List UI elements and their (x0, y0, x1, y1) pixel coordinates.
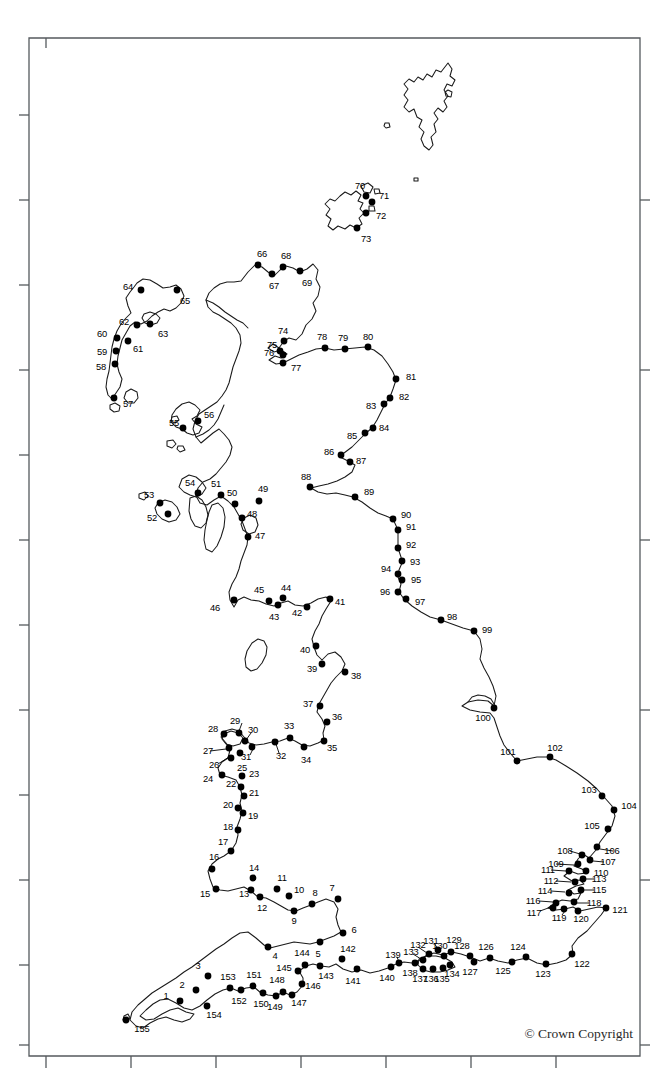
site-dot (342, 669, 349, 676)
site-dot (572, 879, 579, 886)
site-label: 65 (180, 296, 190, 305)
site-dot (369, 199, 376, 206)
site-label: 145 (276, 963, 291, 972)
site-dot (113, 348, 120, 355)
site-label: 20 (223, 800, 233, 809)
site-label: 94 (381, 564, 391, 573)
site-dot (362, 430, 369, 437)
site-dot (363, 210, 370, 217)
site-label: 143 (318, 971, 333, 980)
site-label: 115 (592, 885, 607, 894)
site-dot (286, 893, 293, 900)
site-dot (370, 425, 377, 432)
site-label: 68 (281, 251, 291, 260)
site-label: 44 (281, 583, 291, 592)
site-label: 23 (249, 769, 259, 778)
site-label: 141 (345, 976, 360, 985)
site-label: 55 (169, 418, 179, 427)
coast-orkney-isle-c (369, 206, 375, 211)
site-dot (587, 857, 594, 864)
site-label: 117 (527, 908, 542, 917)
site-dot (231, 597, 238, 604)
site-dot (388, 964, 395, 971)
site-dot (514, 758, 521, 765)
site-dot (603, 905, 610, 912)
site-dot (221, 731, 228, 738)
site-dot (114, 335, 121, 342)
site-dot (272, 739, 279, 746)
site-dot (467, 953, 474, 960)
site-dot (157, 500, 164, 507)
site-label: 30 (248, 725, 258, 734)
site-dot (395, 545, 402, 552)
site-label: 122 (574, 959, 589, 968)
site-label: 38 (351, 671, 361, 680)
copyright-notice: © Crown Copyright (524, 1026, 633, 1042)
site-dot (393, 376, 400, 383)
site-label: 52 (147, 513, 157, 522)
site-label: 148 (269, 975, 284, 984)
site-dot (523, 954, 530, 961)
site-dot (605, 826, 612, 833)
coast-shetland (404, 63, 455, 150)
site-dot (195, 490, 202, 497)
site-label: 120 (573, 914, 588, 923)
site-dot (583, 868, 590, 875)
site-label: 18 (223, 822, 233, 831)
site-dot (363, 193, 370, 200)
site-label: 39 (307, 664, 317, 673)
site-dot (195, 418, 202, 425)
site-dot (569, 951, 576, 958)
site-dot (257, 894, 264, 901)
site-label: 138 (402, 968, 417, 977)
right-tick-marks (640, 200, 650, 1045)
site-dot (226, 745, 233, 752)
site-dot (275, 602, 282, 609)
site-dot (228, 848, 235, 855)
site-label: 62 (119, 317, 129, 326)
site-dot (227, 985, 234, 992)
site-dot (340, 930, 347, 937)
site-label: 49 (258, 484, 268, 493)
site-label: 149 (267, 1002, 282, 1011)
site-label: 63 (158, 329, 168, 338)
site-dot (395, 527, 402, 534)
site-dot (420, 957, 427, 964)
site-dot (274, 886, 281, 893)
site-label: 125 (495, 966, 510, 975)
site-dot (403, 596, 410, 603)
site-label: 32 (276, 751, 286, 760)
site-dot (125, 338, 132, 345)
site-label: 142 (340, 944, 355, 953)
site-dot (412, 960, 419, 967)
site-dot (354, 225, 361, 232)
site-dot (550, 905, 557, 912)
site-dot (297, 268, 304, 275)
site-dot (240, 810, 247, 817)
site-label: 13 (239, 889, 249, 898)
site-dot (281, 338, 288, 345)
site-dot (165, 511, 172, 518)
site-label: 46 (210, 603, 220, 612)
site-label: 76 (264, 348, 274, 357)
site-label: 96 (380, 587, 390, 596)
site-label: 1 (163, 991, 168, 1000)
site-label: 129 (446, 935, 461, 944)
site-dot (575, 861, 582, 868)
site-label: 90 (401, 510, 411, 519)
coast-isle-of-man (245, 639, 267, 671)
site-label: 89 (364, 487, 374, 496)
site-label: 108 (557, 846, 572, 855)
site-dot (317, 703, 324, 710)
site-dot (381, 401, 388, 408)
site-dot (365, 344, 372, 351)
site-label: 114 (538, 886, 553, 895)
site-dot (566, 868, 573, 875)
site-dot (291, 908, 298, 915)
site-dot (396, 960, 403, 967)
site-dot (242, 738, 249, 745)
site-dot (566, 890, 573, 897)
site-label: 139 (385, 950, 400, 959)
coast-foula (384, 123, 390, 128)
site-dot (335, 896, 342, 903)
